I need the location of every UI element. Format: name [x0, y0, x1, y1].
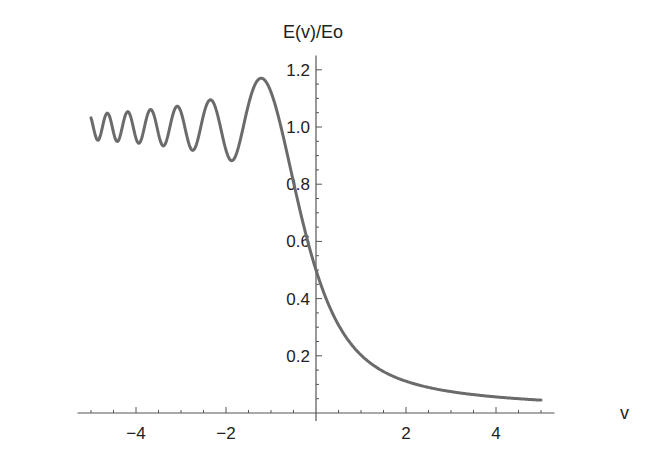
- x-axis-title: v: [620, 403, 629, 423]
- x-tick-label: −4: [126, 424, 145, 443]
- y-tick-label: 1.0: [286, 118, 310, 137]
- y-tick-label: 0.2: [286, 347, 310, 366]
- x-tick-label: −2: [216, 424, 235, 443]
- y-axis-title: E(v)/Eo: [283, 22, 343, 42]
- x-tick-label: 4: [491, 424, 500, 443]
- y-tick-label: 1.2: [286, 61, 310, 80]
- x-tick-label: 2: [401, 424, 410, 443]
- fresnel-edge-chart: −4−2240.20.40.60.81.01.2 E(v)/Eo v: [0, 0, 646, 462]
- y-tick-label: 0.8: [286, 175, 310, 194]
- y-tick-label: 0.4: [286, 290, 310, 309]
